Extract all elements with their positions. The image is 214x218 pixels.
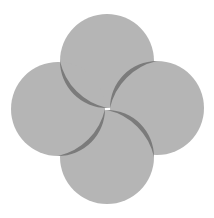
pinwheel-circles-diagram [0, 0, 214, 218]
